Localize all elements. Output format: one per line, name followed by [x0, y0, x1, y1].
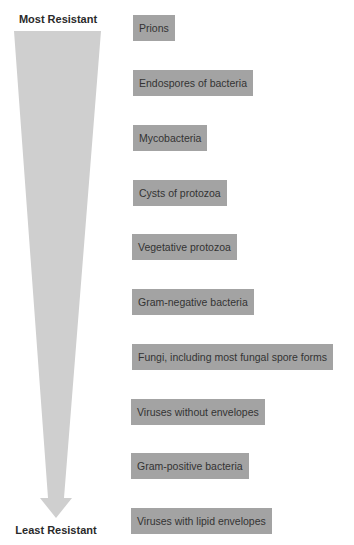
item-fungi: Fungi, including most fungal spore forms — [132, 344, 333, 370]
item-endospores: Endospores of bacteria — [133, 70, 253, 96]
item-mycobacteria: Mycobacteria — [133, 125, 207, 151]
item-protozoa-cysts: Cysts of protozoa — [133, 180, 227, 206]
least-resistant-label: Least Resistant — [0, 524, 116, 536]
item-gram-negative: Gram-negative bacteria — [132, 289, 254, 315]
item-nonenveloped-viruses: Viruses without envelopes — [131, 399, 265, 425]
item-vegetative-protozoa: Vegetative protozoa — [132, 234, 237, 260]
item-enveloped-viruses: Viruses with lipid envelopes — [131, 508, 272, 534]
item-gram-positive: Gram-positive bacteria — [131, 453, 249, 479]
item-prions: Prions — [133, 15, 175, 41]
tapering-arrow-icon — [0, 0, 120, 545]
